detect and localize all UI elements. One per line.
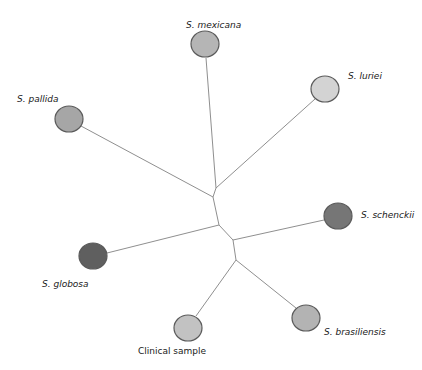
label-s-luriei: S. luriei (348, 71, 382, 82)
branch-n5-clinical (196, 260, 236, 316)
node-clinical (174, 315, 202, 341)
node-pallida (55, 106, 83, 132)
branch-n2-pallida (81, 126, 213, 197)
label-s-brasiliensis: S. brasiliensis (324, 327, 386, 338)
branch-n5-brasiliensis (236, 260, 296, 308)
branch-n1-n2 (213, 188, 216, 197)
branch-lines (81, 58, 324, 316)
label-s-schenckii: S. schenckii (361, 210, 414, 221)
branch-n1-mexicana (206, 58, 216, 188)
branch-n4-schenckii (233, 220, 324, 240)
label-s-mexicana: S. mexicana (186, 20, 241, 31)
branch-n2-n3 (213, 197, 219, 225)
tree-canvas (0, 0, 422, 370)
node-brasiliensis (292, 305, 320, 331)
branch-n1-luriei (216, 99, 315, 188)
branch-n4-n5 (233, 240, 236, 260)
label-s-pallida: S. pallida (17, 94, 58, 105)
branch-n3-globosa (107, 225, 219, 253)
branch-n3-n4 (219, 225, 233, 240)
node-schenckii (324, 203, 352, 229)
leaf-nodes (55, 31, 352, 341)
label-clinical-sample: Clinical sample (138, 346, 206, 357)
phylogenetic-tree: S. mexicana S. luriei S. pallida S. sche… (0, 0, 422, 370)
node-globosa (79, 243, 107, 269)
node-luriei (311, 76, 339, 102)
node-mexicana (191, 31, 219, 57)
label-s-globosa: S. globosa (42, 279, 89, 290)
